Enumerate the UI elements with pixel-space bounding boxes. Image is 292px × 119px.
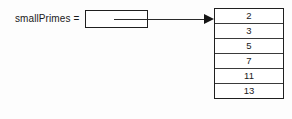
pointer-stub-line: [114, 19, 148, 20]
arrow-head-icon: [204, 14, 214, 24]
array-container: 2 3 5 7 11 13: [214, 8, 284, 99]
array-cell: 2: [215, 9, 283, 24]
array-cell: 11: [215, 69, 283, 84]
array-cell: 7: [215, 54, 283, 69]
variable-label: smallPrimes =: [15, 13, 79, 25]
arrow-shaft: [148, 19, 207, 20]
array-cell: 3: [215, 24, 283, 39]
array-cell: 5: [215, 39, 283, 54]
array-cell: 13: [215, 84, 283, 98]
pointer-array-diagram: smallPrimes = 2 3 5 7 11 13: [0, 0, 292, 119]
